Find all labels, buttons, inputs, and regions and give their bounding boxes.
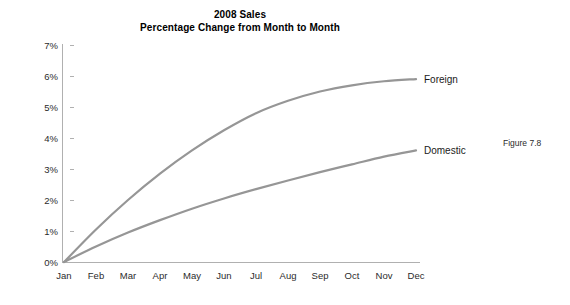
y-tick-mark xyxy=(70,262,74,263)
chart-figure: 2008 Sales Percentage Change from Month … xyxy=(0,0,570,305)
y-tick-label: 0% xyxy=(18,257,58,268)
x-axis-line xyxy=(62,262,420,263)
series-label-domestic: Domestic xyxy=(424,145,466,156)
figure-caption: Figure 7.8 xyxy=(503,138,541,148)
series-line xyxy=(64,150,416,262)
series-label-foreign: Foreign xyxy=(424,74,458,85)
x-tick-label: Dec xyxy=(396,270,436,281)
series-line xyxy=(64,79,416,262)
chart-plot-lines xyxy=(0,0,480,230)
y-tick-mark xyxy=(70,231,74,232)
